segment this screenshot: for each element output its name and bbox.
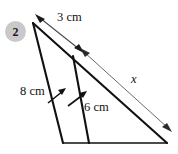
label-left-side: 8 cm <box>20 85 45 98</box>
label-hypotenuse: x <box>131 73 137 86</box>
label-inner-side: 6 cm <box>84 101 109 114</box>
geometry-figure: 2 3 cm 8 cm 6 cm x <box>0 0 178 154</box>
question-number-text: 2 <box>13 26 19 38</box>
triangle-left-side <box>33 23 63 143</box>
triangle-hypotenuse-side <box>33 23 167 143</box>
question-number-badge: 2 <box>5 21 26 42</box>
label-top-segment: 3 cm <box>57 11 82 24</box>
dimension-x-arrow <box>80 48 172 132</box>
triangle-diagram-svg <box>0 0 178 154</box>
